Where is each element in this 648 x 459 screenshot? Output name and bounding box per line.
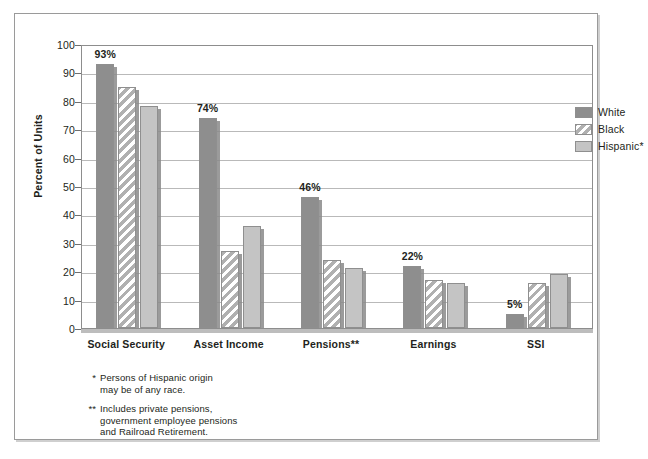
bar-fill — [118, 87, 136, 328]
footnote-line: Persons of Hispanic origin — [100, 372, 378, 384]
bar[interactable] — [323, 260, 341, 328]
bar-shadow — [524, 317, 527, 328]
bar[interactable] — [243, 226, 261, 328]
x-axis-tick-label: SSI — [527, 338, 544, 350]
bar-shadow — [114, 67, 117, 328]
bar-fill — [140, 106, 158, 328]
legend-swatch-icon — [575, 124, 592, 135]
bar[interactable]: 46% — [301, 197, 319, 328]
bar[interactable] — [221, 251, 239, 328]
bar-fill — [550, 274, 568, 328]
chart-legend: WhiteBlackHispanic* — [575, 104, 648, 155]
bar-group: 5% — [506, 46, 568, 328]
bar-shadow — [136, 90, 139, 328]
y-axis-tick-label: 10 — [29, 295, 75, 307]
bar-fill — [447, 283, 465, 328]
bar-shadow — [239, 254, 242, 328]
bar-value-label: 46% — [299, 181, 320, 193]
footnotes: *Persons of Hispanic originmay be of any… — [78, 372, 378, 446]
bar-fill — [243, 226, 261, 328]
bar-shadow — [319, 200, 322, 328]
bar[interactable] — [528, 283, 546, 328]
bar-shadow — [261, 229, 264, 328]
plot-region: 93%74%46%22%5% WhiteBlackHispanic* — [81, 45, 593, 329]
bar-value-label: 5% — [507, 298, 522, 310]
legend-swatch-icon — [575, 107, 592, 118]
bar-fill — [506, 314, 524, 328]
bar-group: 74% — [199, 46, 261, 328]
footnote: **Includes private pensions,government e… — [78, 403, 378, 438]
legend-item[interactable]: White — [575, 104, 648, 120]
bar[interactable]: 5% — [506, 314, 524, 328]
y-axis-tick-label: 20 — [29, 266, 75, 278]
bar-shadow — [158, 109, 161, 328]
bar[interactable] — [425, 280, 443, 328]
y-axis-tick-label: 100 — [29, 39, 75, 51]
bar-shadow — [341, 263, 344, 328]
bar-value-label: 74% — [197, 102, 218, 114]
bar-shadow — [465, 286, 468, 328]
bar[interactable] — [140, 106, 158, 328]
bar-shadow — [217, 121, 220, 328]
footnote-marker: * — [78, 372, 96, 383]
bar[interactable]: 22% — [403, 266, 421, 328]
y-axis-title: Percent of Units — [32, 71, 44, 241]
x-axis-tick-label: Social Security — [87, 338, 165, 350]
footnote-line: may be of any race. — [100, 384, 378, 396]
bars-layer: 93%74%46%22%5% — [82, 46, 592, 328]
bar-value-label: 22% — [402, 250, 423, 262]
footnote-line: and Railroad Retirement. — [100, 426, 378, 438]
bar-fill — [323, 260, 341, 328]
bar[interactable]: 74% — [199, 118, 217, 328]
legend-swatch-icon — [575, 141, 592, 152]
y-axis-tick-label: 0 — [29, 323, 75, 335]
bar-group: 46% — [301, 46, 363, 328]
bar[interactable] — [118, 87, 136, 328]
legend-item-label: Hispanic* — [598, 140, 644, 152]
bar-value-label: 93% — [95, 48, 116, 60]
x-axis-tick-label: Asset Income — [194, 338, 264, 350]
bar-shadow — [363, 271, 366, 328]
legend-item[interactable]: Black — [575, 121, 648, 137]
figure-frame: 1009080706050403020100 Percent of Units … — [14, 13, 598, 440]
bar-fill — [96, 64, 114, 328]
x-axis-baseline — [81, 328, 593, 333]
footnote-marker: ** — [78, 403, 96, 414]
bar[interactable]: 93% — [96, 64, 114, 328]
bar-fill — [345, 268, 363, 328]
x-axis-tick-label: Pensions** — [303, 338, 359, 350]
bar-shadow — [421, 269, 424, 328]
bar[interactable] — [345, 268, 363, 328]
legend-item-label: Black — [598, 123, 624, 135]
footnote-line: government employee pensions — [100, 415, 378, 427]
bar-group: 93% — [96, 46, 158, 328]
x-axis-tick-label: Earnings — [410, 338, 456, 350]
bar-shadow — [568, 277, 571, 328]
bar-fill — [199, 118, 217, 328]
bar[interactable] — [550, 274, 568, 328]
bar-fill — [528, 283, 546, 328]
bar-fill — [221, 251, 239, 328]
footnote-line: Includes private pensions, — [100, 403, 378, 415]
bar-fill — [301, 197, 319, 328]
bar-group: 22% — [403, 46, 465, 328]
bar-fill — [425, 280, 443, 328]
bar[interactable] — [447, 283, 465, 328]
bar-shadow — [546, 286, 549, 328]
plot-area: 93%74%46%22%5% WhiteBlackHispanic* — [81, 45, 593, 329]
footnote: *Persons of Hispanic originmay be of any… — [78, 372, 378, 395]
bar-shadow — [443, 283, 446, 328]
legend-item-label: White — [598, 106, 626, 118]
bar-fill — [403, 266, 421, 328]
legend-item[interactable]: Hispanic* — [575, 138, 648, 154]
